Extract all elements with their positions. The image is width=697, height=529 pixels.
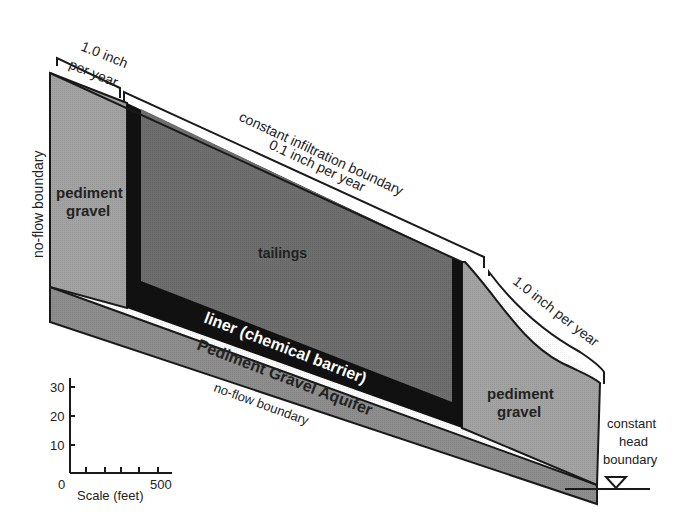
right-boundary-label-3: boundary	[603, 452, 658, 467]
scale-x-max: 500	[150, 477, 172, 492]
right-boundary-label-1: constant	[607, 416, 657, 431]
scale-title: Scale (feet)	[77, 488, 143, 503]
left-gravel-label-1: pediment	[56, 184, 123, 201]
tailings-label: tailings	[258, 245, 307, 261]
right-boundary-label-2: head	[619, 434, 648, 449]
scale-tick-30: 30	[50, 380, 64, 395]
left-boundary-label: no-flow boundary	[30, 151, 46, 258]
scale-bar	[70, 378, 172, 473]
left-gravel-label-2: gravel	[66, 202, 110, 219]
right-gravel-label-2: gravel	[497, 403, 541, 420]
scale-tick-10: 10	[50, 438, 64, 453]
scale-x-min: 0	[58, 477, 65, 492]
scale-tick-20: 20	[50, 409, 64, 424]
cross-section-diagram: 1.0 inch per year constant infiltration …	[0, 0, 697, 529]
water-table-triangle-icon	[606, 477, 626, 488]
right-gravel-label-1: pediment	[487, 385, 554, 402]
